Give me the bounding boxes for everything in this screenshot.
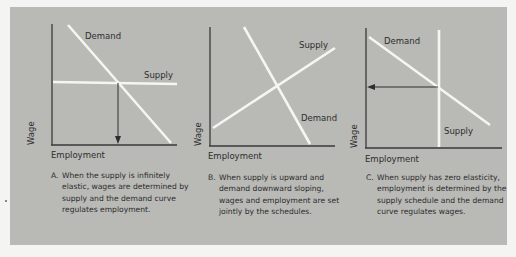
stray-mark xyxy=(5,200,7,202)
arrow-head xyxy=(367,84,375,90)
caption-a: A.When the supply is infinitely elastic,… xyxy=(51,170,192,215)
x-axis-label: Employment xyxy=(365,154,419,164)
supply-label: Supply xyxy=(299,40,328,50)
caption-letter: B. xyxy=(208,172,219,183)
arrow-head xyxy=(115,136,121,144)
diagram-b-plot: Supply Demand Wage xyxy=(180,0,350,160)
caption-text: When supply has zero elasticity, employm… xyxy=(377,173,506,216)
caption-text: When supply is upward and demand downwar… xyxy=(219,173,339,216)
demand-label: Demand xyxy=(85,31,121,41)
supply-label: Supply xyxy=(444,126,473,136)
diagram-a-plot: Demand Supply Wage xyxy=(0,0,190,160)
caption-letter: A. xyxy=(51,170,62,181)
caption-b: B.When supply is upward and demand downw… xyxy=(208,172,349,217)
supply-label: Supply xyxy=(144,70,173,80)
y-axis-label: Wage xyxy=(193,122,203,146)
caption-c: C.When supply has zero elasticity, emplo… xyxy=(366,172,507,217)
caption-text: When the supply is infinitely elastic, w… xyxy=(62,171,189,214)
demand-label: Demand xyxy=(301,113,337,123)
caption-letter: C. xyxy=(366,172,377,183)
supply-curve xyxy=(53,82,177,84)
x-axis-label: Employment xyxy=(51,150,105,160)
demand-label: Demand xyxy=(384,36,420,46)
x-axis-label: Employment xyxy=(208,151,262,161)
diagram-c-plot: Demand Supply Wage xyxy=(340,0,516,160)
y-axis-label: Wage xyxy=(349,124,359,148)
y-axis-label: Wage xyxy=(26,121,36,145)
demand-curve xyxy=(369,37,490,125)
